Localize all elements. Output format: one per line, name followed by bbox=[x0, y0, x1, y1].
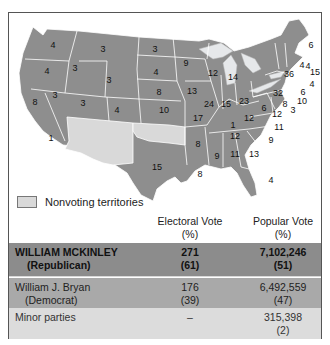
candidate-name: William J. Bryan bbox=[15, 281, 90, 293]
election-results-panel: 4 4 8 1 3 3 3 3 3 4 3 4 8 10 15 9 13 17 … bbox=[8, 12, 322, 339]
ev-california: 8 bbox=[32, 97, 37, 107]
ev-michigan: 14 bbox=[228, 72, 238, 82]
ev-virginia: 12 bbox=[272, 109, 282, 119]
ev-maryland: 8 bbox=[282, 99, 287, 109]
electoral-vote-value: 176 bbox=[181, 281, 199, 293]
ev-connecticut: 6 bbox=[300, 87, 305, 97]
ev-florida: 4 bbox=[268, 175, 273, 185]
ev-maine: 6 bbox=[308, 40, 313, 50]
ev-illinois: 24 bbox=[204, 99, 214, 109]
ev-louisiana: 8 bbox=[197, 169, 202, 179]
popular-vote-value: 6,492,559 bbox=[260, 281, 307, 293]
ev-washington: 4 bbox=[50, 40, 55, 50]
ev-missouri: 17 bbox=[193, 113, 203, 123]
popular-vote-cell: 315,398 (2) bbox=[245, 311, 321, 337]
electoral-vote-header: Electoral Vote (%) bbox=[149, 215, 231, 241]
ev-ohio: 23 bbox=[239, 96, 249, 106]
ev-georgia: 13 bbox=[249, 149, 259, 159]
popular-vote-pct: (47) bbox=[274, 294, 293, 306]
popular-vote-cell: 7,102,246 (51) bbox=[245, 246, 321, 272]
ev-minnesota: 9 bbox=[183, 58, 188, 68]
electoral-vote-header-label: Electoral Vote bbox=[158, 215, 223, 227]
ev-arkansas: 8 bbox=[195, 139, 200, 149]
ev-alabama: 11 bbox=[230, 149, 239, 159]
electoral-vote-value: 271 bbox=[181, 246, 199, 258]
nonvoting-label: Nonvoting territories bbox=[45, 196, 143, 208]
popular-vote-header: Popular Vote (%) bbox=[245, 215, 321, 241]
candidate-cell: Minor parties bbox=[15, 311, 76, 324]
popular-vote-value: 315,398 bbox=[264, 311, 302, 323]
ev-new-jersey: 10 bbox=[297, 96, 307, 106]
candidate-cell: WILLIAM MCKINLEY (Republican) bbox=[15, 246, 118, 272]
nonvoting-swatch bbox=[17, 196, 37, 208]
territory-arizona-newmexico bbox=[65, 117, 133, 165]
candidate-name: Minor parties bbox=[15, 311, 76, 323]
results-row-minor-parties: Minor parties – 315,398 (2) bbox=[9, 308, 321, 339]
popular-vote-pct: (2) bbox=[277, 324, 290, 336]
us-map-svg: 4 4 8 1 3 3 3 3 3 4 3 4 8 10 15 9 13 17 … bbox=[9, 13, 321, 213]
us-electoral-map: 4 4 8 1 3 3 3 3 3 4 3 4 8 10 15 9 13 17 … bbox=[9, 13, 321, 213]
electoral-vote-cell: 271 (61) bbox=[149, 246, 231, 272]
ev-west-virginia: 6 bbox=[261, 103, 266, 113]
popular-vote-pct: (51) bbox=[274, 259, 293, 271]
ev-rhode-island: 4 bbox=[309, 79, 314, 89]
popular-vote-header-sub: (%) bbox=[275, 228, 291, 240]
results-row-mckinley: WILLIAM MCKINLEY (Republican) 271 (61) 7… bbox=[9, 243, 321, 277]
ev-california-south: 1 bbox=[48, 133, 53, 143]
ev-delaware: 3 bbox=[290, 105, 295, 115]
ev-vermont: 4 bbox=[299, 60, 304, 70]
ev-south-carolina: 9 bbox=[268, 135, 273, 145]
ev-new-york: 36 bbox=[284, 69, 294, 79]
ev-idaho: 3 bbox=[72, 63, 77, 73]
ev-colorado: 4 bbox=[114, 105, 119, 115]
ev-utah: 3 bbox=[80, 98, 85, 108]
candidate-party: (Republican) bbox=[15, 259, 118, 272]
electoral-vote-value: – bbox=[187, 311, 193, 323]
electoral-vote-cell: – bbox=[149, 311, 231, 324]
ev-south-dakota: 4 bbox=[153, 67, 158, 77]
ev-oregon: 4 bbox=[44, 66, 49, 76]
ev-massachusetts: 15 bbox=[310, 67, 320, 77]
map-legend: Nonvoting territories bbox=[17, 196, 143, 208]
ev-new-hampshire: 4 bbox=[305, 61, 310, 71]
ev-kentucky-split: 1 bbox=[230, 120, 235, 130]
ev-tennessee: 12 bbox=[230, 131, 240, 141]
candidate-cell: William J. Bryan (Democrat) bbox=[15, 281, 90, 307]
electoral-vote-cell: 176 (39) bbox=[149, 281, 231, 307]
ev-wyoming: 3 bbox=[106, 75, 111, 85]
ev-nevada: 3 bbox=[52, 90, 57, 100]
ev-iowa: 13 bbox=[187, 86, 197, 96]
ev-texas: 15 bbox=[152, 162, 162, 172]
results-row-bryan: William J. Bryan (Democrat) 176 (39) 6,4… bbox=[9, 278, 321, 308]
ev-wisconsin: 12 bbox=[208, 68, 218, 78]
popular-vote-value: 7,102,246 bbox=[260, 246, 307, 258]
ev-kentucky: 12 bbox=[244, 113, 254, 123]
ev-north-carolina: 11 bbox=[274, 122, 283, 132]
ev-montana: 3 bbox=[100, 44, 105, 54]
ev-indiana: 15 bbox=[221, 99, 231, 109]
electoral-vote-header-sub: (%) bbox=[182, 228, 198, 240]
ev-nebraska: 8 bbox=[156, 87, 161, 97]
candidate-party: (Democrat) bbox=[15, 294, 90, 307]
ev-mississippi: 9 bbox=[214, 151, 219, 161]
candidate-name: WILLIAM MCKINLEY bbox=[15, 246, 118, 258]
electoral-vote-pct: (39) bbox=[181, 294, 200, 306]
popular-vote-cell: 6,492,559 (47) bbox=[245, 281, 321, 307]
popular-vote-header-label: Popular Vote bbox=[253, 215, 313, 227]
ev-kansas: 10 bbox=[159, 105, 169, 115]
ev-pennsylvania: 32 bbox=[273, 88, 283, 98]
electoral-vote-pct: (61) bbox=[181, 259, 200, 271]
ev-north-dakota: 3 bbox=[152, 44, 157, 54]
